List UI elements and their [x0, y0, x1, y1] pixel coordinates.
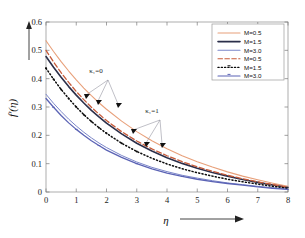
y-tick-label: 0.1	[31, 159, 42, 169]
series-marker	[98, 127, 100, 129]
legend-label: M=0.5	[244, 55, 262, 62]
figure-root: 012345678 00.10.20.30.40.50.6 κ₁=0κ₁=1 η	[0, 0, 305, 238]
y-tick-label: 0	[38, 187, 42, 197]
line-chart: 012345678 00.10.20.30.40.50.6 κ₁=0κ₁=1 η	[0, 0, 305, 238]
series-marker	[83, 114, 85, 116]
legend-label: M=3.0	[244, 47, 262, 54]
series-marker	[136, 150, 138, 152]
legend-label: M=1.5	[244, 38, 262, 45]
series-marker	[75, 106, 77, 108]
series-marker	[90, 120, 92, 122]
x-axis-arrow-icon	[180, 216, 244, 223]
x-tick-label: 2	[104, 195, 108, 205]
x-tick-label: 7	[256, 195, 260, 205]
annotation-label: κ₁=0	[89, 67, 103, 75]
x-tick-label: 4	[165, 195, 170, 205]
y-tick-label: 0.3	[31, 102, 42, 112]
series-marker	[45, 67, 47, 69]
y-tick-label: 0.6	[31, 17, 42, 27]
x-tick-label: 6	[225, 195, 229, 205]
x-tick-label: 0	[44, 195, 48, 205]
x-tick-label: 5	[195, 195, 199, 205]
legend-label: M=0.5	[244, 29, 262, 36]
y-tick-label: 0.4	[31, 74, 42, 84]
series-marker	[60, 88, 62, 90]
x-tick-label: 1	[74, 195, 78, 205]
x-tick-label: 3	[135, 195, 139, 205]
y-tick-label: 0.5	[31, 45, 42, 55]
legend-label: M=1.5	[244, 64, 262, 71]
series-marker	[106, 132, 108, 134]
series-marker	[121, 142, 123, 144]
y-tick-label: 0.2	[31, 130, 42, 140]
series-marker	[68, 98, 70, 100]
annotation-label: κ₁=1	[145, 107, 159, 115]
series-marker	[53, 78, 55, 80]
y-axis-title: f'(η)	[6, 99, 19, 118]
legend-label: M=3.0	[244, 72, 262, 79]
x-axis-title: η	[163, 214, 168, 226]
x-tick-label: 8	[286, 195, 290, 205]
